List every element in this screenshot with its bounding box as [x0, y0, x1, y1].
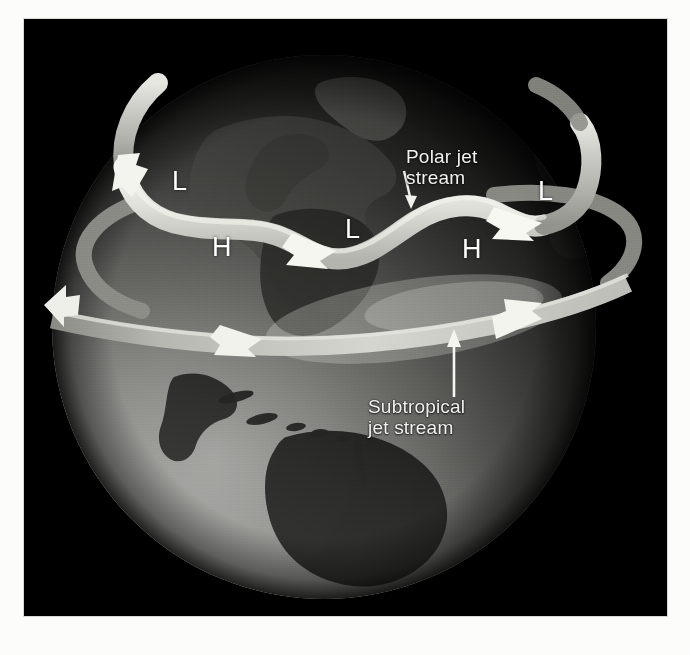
pressure-label-low-center: L	[345, 215, 360, 244]
pressure-label-high-left: H	[212, 233, 232, 262]
polar-jet-label-line2: stream	[406, 167, 465, 188]
polar-jet-stream-label: Polar jetstream	[406, 147, 478, 188]
subtropical-jet-label-line2: jet stream	[368, 417, 453, 438]
pressure-label-low-right: L	[538, 177, 553, 206]
image-plate: Polar jetstream Subtropicaljet stream L …	[24, 19, 667, 616]
polar-jet-label-line1: Polar jet	[406, 146, 478, 167]
subtropical-jet-label-line1: Subtropical	[368, 396, 465, 417]
globe-illustration	[24, 19, 667, 616]
subtropical-jet-stream-label: Subtropicaljet stream	[368, 397, 465, 438]
pressure-label-low-left: L	[172, 167, 187, 196]
pressure-label-high-right: H	[462, 235, 482, 264]
jet-stream-figure: Polar jetstream Subtropicaljet stream L …	[0, 0, 690, 655]
